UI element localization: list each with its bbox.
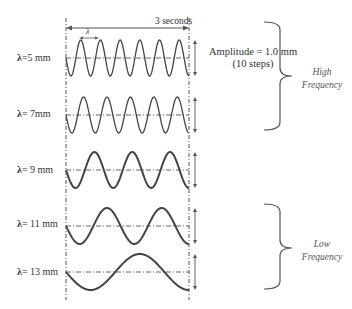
amplitude-value: Amplitude = 1.0 mm	[198, 46, 308, 58]
wave-label-9mm: λ= 9 mm	[17, 164, 53, 175]
wave-label-7mm: λ= 7mm	[17, 108, 51, 119]
low-frequency-label: Low Frequency	[292, 238, 352, 264]
low-frequency-bracket	[264, 204, 292, 289]
duration-label: 3 seconds	[155, 16, 192, 26]
high-frequency-bracket	[264, 22, 292, 130]
high-frequency-label: High Frequency	[292, 66, 352, 92]
wavelength-arrow	[79, 37, 99, 40]
wave-label-5mm: λ=5 mm	[17, 52, 51, 63]
duration-arrow	[66, 26, 189, 31]
lambda-marker: λ	[86, 27, 89, 36]
wave-label-13mm: λ= 13 mm	[17, 266, 58, 277]
wave-label-11mm: λ= 11 mm	[17, 218, 58, 229]
